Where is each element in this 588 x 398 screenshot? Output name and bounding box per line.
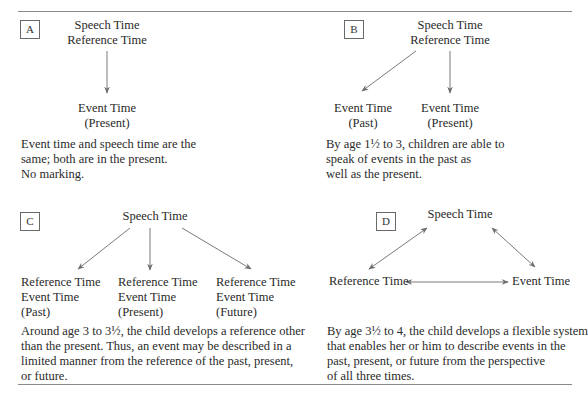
panel-d-event-time: Event Time	[512, 274, 570, 289]
desc-line: or future.	[21, 369, 305, 384]
panel-d-speech-time: Speech Time	[415, 207, 505, 222]
arrow-c-past	[78, 228, 130, 269]
bottom-rule	[18, 384, 572, 385]
panel-a-speech-time: Speech Time	[57, 18, 157, 33]
desc-line: By age 3½ to 4, the child develops a fle…	[327, 324, 588, 339]
panel-d-description: By age 3½ to 4, the child develops a fle…	[327, 324, 588, 384]
panel-a-reference-time: Reference Time	[57, 33, 157, 48]
desc-line: same; both are in the present.	[21, 152, 196, 167]
panel-c-past-event: Event Time	[21, 290, 79, 305]
panel-c-description: Around age 3 to 3½, the child develops a…	[21, 324, 305, 384]
arrow-d-speech-event	[492, 228, 535, 267]
panel-c-future-event: Event Time	[216, 290, 274, 305]
panel-c-speech-time: Speech Time	[110, 209, 200, 224]
desc-line: well as the present.	[326, 167, 504, 182]
panel-d-reference-time: Reference Time	[329, 274, 409, 289]
panel-c-tag: C	[20, 212, 40, 231]
panel-b-description: By age 1½ to 3, children are able to spe…	[326, 137, 504, 182]
desc-line: Around age 3 to 3½, the child develops a…	[21, 324, 305, 339]
panel-b-event-past-time: Event Time	[318, 101, 408, 116]
panel-c-present-label: (Present)	[118, 305, 163, 320]
desc-line: of all three times.	[327, 369, 588, 384]
desc-line: Event time and speech time are the	[21, 137, 196, 152]
panel-a-description: Event time and speech time are the same;…	[21, 137, 196, 182]
desc-line: past, present, or future from the perspe…	[327, 354, 588, 369]
desc-line: No marking.	[21, 167, 196, 182]
panel-c-present-reference: Reference Time	[118, 275, 198, 290]
arrow-d-speech-reference	[369, 228, 427, 269]
panel-a-tag: A	[20, 20, 40, 39]
arrow-b-past	[362, 51, 416, 91]
panel-c-past-label: (Past)	[21, 305, 50, 320]
panel-b-event-present: (Present)	[405, 116, 495, 131]
panel-b-event-present-time: Event Time	[405, 101, 495, 116]
panel-c-past-reference: Reference Time	[21, 275, 101, 290]
desc-line: By age 1½ to 3, children are able to	[326, 137, 504, 152]
panel-d-tag: D	[376, 212, 396, 231]
panel-b-tag: B	[344, 20, 364, 39]
top-rule	[18, 11, 572, 12]
arrow-c-future	[182, 228, 251, 269]
desc-line: that enables her or him to describe even…	[327, 339, 588, 354]
panel-a-event-present: (Present)	[57, 116, 157, 131]
desc-line: limited manner from the reference of the…	[21, 354, 305, 369]
panel-b-reference-time: Reference Time	[400, 33, 500, 48]
panel-c-present-event: Event Time	[118, 290, 176, 305]
desc-line: speak of events in the past as	[326, 152, 504, 167]
panel-c-future-reference: Reference Time	[216, 275, 296, 290]
panel-a-event-time: Event Time	[57, 101, 157, 116]
panel-b-event-past: (Past)	[318, 116, 408, 131]
panel-b-speech-time: Speech Time	[400, 18, 500, 33]
panel-c-future-label: (Future)	[216, 305, 257, 320]
desc-line: than the present. Thus, an event may be …	[21, 339, 305, 354]
